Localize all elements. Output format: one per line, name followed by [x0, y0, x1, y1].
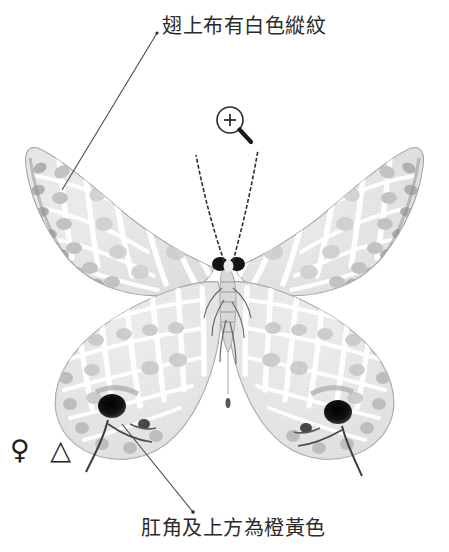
annotation-label-bottom: 肛角及上方為橙黃色 [141, 516, 326, 540]
sex-and-shape-symbols: ♀ △ [10, 436, 77, 463]
left-antenna [196, 155, 224, 261]
leader-line-top [62, 33, 157, 190]
annotation-label-top: 翅上布有白色縱紋 [162, 14, 326, 38]
right-hindwing [219, 275, 399, 476]
butterfly-illustration [0, 0, 449, 552]
butterfly-figure: 翅上布有白色縱紋 肛角及上方為橙黃色 ♀ △ [0, 0, 449, 552]
left-anal-angle-spot [98, 394, 126, 418]
right-anal-angle-spot [324, 400, 352, 424]
center-speck [226, 398, 231, 408]
magnifier-plus-icon[interactable] [217, 107, 251, 142]
right-antenna [233, 150, 258, 261]
